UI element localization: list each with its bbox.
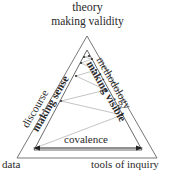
tools-of-inquiry-corner-label: tools of inquiry [91, 159, 159, 170]
apex-sublabel: making validity [0, 16, 175, 28]
covalence-label: covalence [64, 134, 108, 145]
triangle-diagram: theory making validity discourse making … [0, 0, 175, 185]
apex-label: theory [0, 1, 175, 13]
data-corner-label: data [2, 159, 20, 170]
